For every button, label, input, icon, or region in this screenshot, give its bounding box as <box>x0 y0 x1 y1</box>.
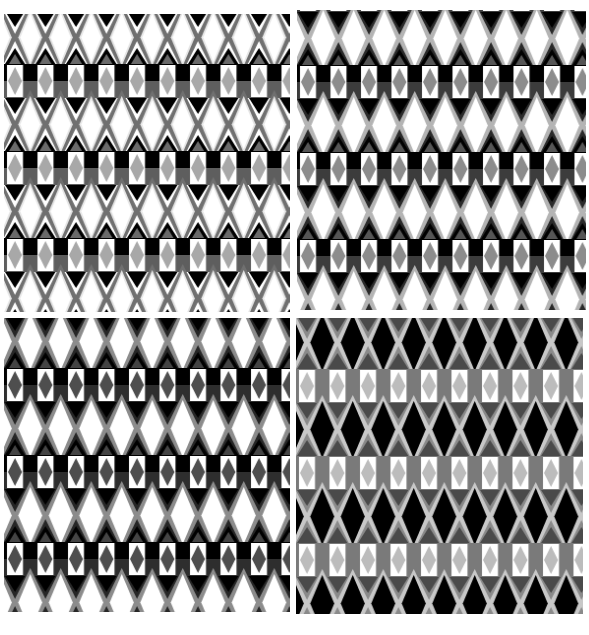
pattern-panel-top-left <box>4 14 290 312</box>
pattern-panel-bottom-left <box>4 318 290 612</box>
pattern-panel-top-right <box>297 10 586 310</box>
pattern-panel-bottom-right <box>296 318 583 614</box>
